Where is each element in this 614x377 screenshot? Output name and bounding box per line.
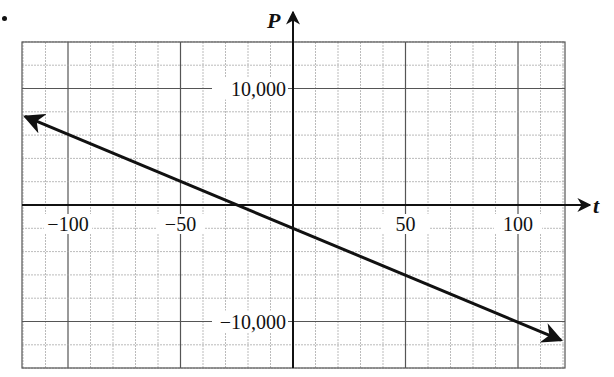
y-axis-label: P [266, 8, 281, 33]
x-tick-label: −50 [165, 213, 196, 235]
x-tick-label: −100 [47, 213, 88, 235]
x-axis-label: t [593, 193, 600, 218]
y-tick-label: −10,000 [220, 311, 286, 333]
x-tick-label: 100 [503, 213, 533, 235]
line-chart: tP−100−505010010,000−10,000 [0, 0, 614, 377]
y-tick-label: 10,000 [231, 78, 286, 100]
x-tick-label: 50 [396, 213, 416, 235]
